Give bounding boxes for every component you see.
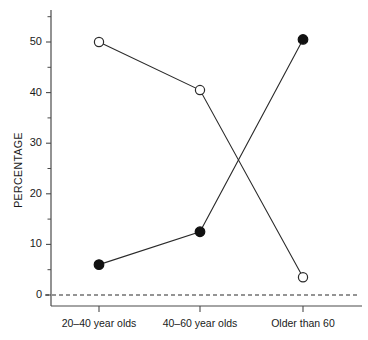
series-0-point-2 [298,273,307,282]
y-tick-label-40: 40 [30,86,42,98]
x-tick-label-1: 40–60 year olds [163,317,238,329]
chart-container: PERCENTAGE 01020304050 20–40 year olds40… [0,0,368,340]
series-1-point-2 [298,35,308,45]
series-1-point-1 [195,227,205,237]
series-0-point-0 [94,37,103,46]
y-tick-label-10: 10 [30,237,42,249]
y-tick-label-20: 20 [30,187,42,199]
x-tick-label-0: 20–40 year olds [62,317,137,329]
x-axis-ticks [99,306,303,312]
y-tick-label-30: 30 [30,136,42,148]
series-0-point-1 [195,85,204,94]
series-markers [94,35,308,282]
line-chart: PERCENTAGE 01020304050 20–40 year olds40… [0,0,368,340]
y-axis-title: PERCENTAGE [12,132,24,208]
series-0-line [99,42,303,277]
y-axis-tick-labels: 01020304050 [30,35,42,300]
y-tick-label-50: 50 [30,35,42,47]
y-axis-title-label: PERCENTAGE [12,132,24,208]
series-lines [99,39,303,277]
series-1-point-0 [94,260,104,270]
x-axis-tick-labels: 20–40 year olds40–60 year oldsOlder than… [62,317,335,329]
x-tick-label-2: Older than 60 [271,317,335,329]
y-tick-label-0: 0 [36,288,42,300]
